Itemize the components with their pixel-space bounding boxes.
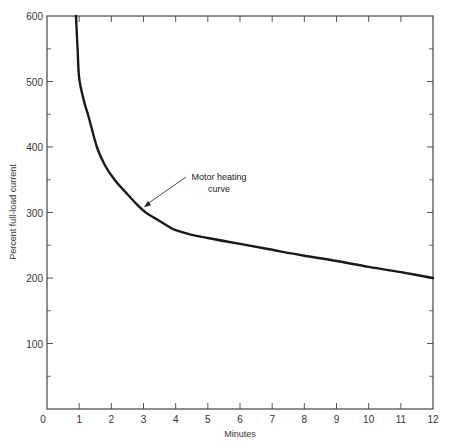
- y-axis-title: Percent full-load current: [8, 164, 18, 260]
- y-tick-label: 300: [26, 208, 43, 219]
- x-tick-label: 10: [363, 414, 375, 425]
- x-tick-label: 2: [109, 414, 115, 425]
- x-axis-title: Minutes: [224, 429, 256, 439]
- motor-heating-curve: [76, 16, 433, 278]
- tick-labels: 0123456789101112100200300400500600: [26, 11, 439, 425]
- x-tick-label: 9: [334, 414, 340, 425]
- x-tick-label: 12: [427, 414, 439, 425]
- annotation-label-line1: Motor heating: [191, 172, 246, 182]
- y-tick-label: 100: [26, 339, 43, 350]
- x-tick-label: 5: [205, 414, 211, 425]
- x-tick-label: 0: [40, 414, 46, 425]
- plot-border: [47, 16, 433, 409]
- annotation-arrow-line: [147, 177, 186, 204]
- curve-annotation: Motor heating curve: [144, 172, 247, 207]
- x-tick-label: 6: [237, 414, 243, 425]
- y-tick-label: 500: [26, 77, 43, 88]
- y-tick-label: 600: [26, 11, 43, 22]
- chart: 0123456789101112100200300400500600 Motor…: [0, 0, 449, 448]
- x-tick-label: 7: [269, 414, 275, 425]
- x-tick-label: 11: [396, 414, 407, 425]
- y-tick-label: 200: [26, 273, 43, 284]
- plot-frame: [47, 16, 433, 409]
- x-tick-label: 8: [302, 414, 308, 425]
- x-tick-label: 4: [173, 414, 179, 425]
- x-tick-label: 1: [76, 414, 82, 425]
- annotation-label-line2: curve: [208, 184, 230, 194]
- x-tick-label: 3: [141, 414, 147, 425]
- axis-ticks: [47, 16, 433, 409]
- y-tick-label: 400: [26, 142, 43, 153]
